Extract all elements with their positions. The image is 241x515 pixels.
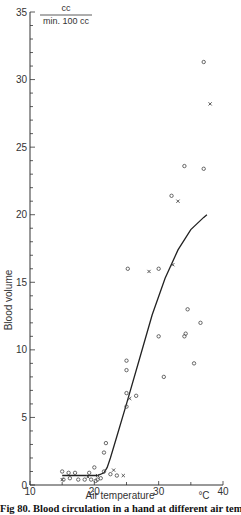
y-tick-label: 5 bbox=[21, 412, 27, 423]
x-tick-label: 30 bbox=[153, 486, 165, 497]
circle-marker bbox=[115, 474, 118, 477]
circle-marker bbox=[60, 470, 63, 473]
y-axis-title: Blood volume bbox=[3, 269, 14, 330]
circle-marker bbox=[183, 164, 186, 167]
y-unit-numerator: cc bbox=[62, 3, 72, 13]
circle-marker bbox=[157, 335, 160, 338]
circle-marker bbox=[192, 362, 195, 365]
y-tick-label: 35 bbox=[16, 7, 28, 18]
x-tick-label: 40 bbox=[217, 486, 229, 497]
circle-marker bbox=[109, 472, 112, 475]
circle-marker bbox=[99, 477, 102, 480]
figure-caption: Fig 80. Blood circulation in a hand at d… bbox=[0, 503, 241, 514]
blood-volume-chart: 0510152025303510203040 Blood volume Air … bbox=[0, 0, 241, 515]
y-tick-label: 20 bbox=[16, 209, 28, 220]
circle-marker bbox=[126, 267, 129, 270]
x-tick-label: 10 bbox=[24, 486, 36, 497]
circle-marker bbox=[67, 471, 70, 474]
y-tick-label: 10 bbox=[16, 344, 28, 355]
y-tick-label: 15 bbox=[16, 277, 28, 288]
circle-marker bbox=[104, 441, 107, 444]
cross-marker bbox=[176, 200, 179, 203]
circle-marker bbox=[125, 359, 128, 362]
circle-marker bbox=[93, 466, 96, 469]
y-unit-denominator: min. 100 cc bbox=[43, 16, 90, 26]
y-tick-label: 30 bbox=[16, 74, 28, 85]
circle-marker bbox=[125, 368, 128, 371]
circle-marker bbox=[157, 267, 160, 270]
y-tick-label: 25 bbox=[16, 142, 28, 153]
cross-marker bbox=[122, 474, 125, 477]
circle-marker bbox=[202, 167, 205, 170]
circle-marker bbox=[162, 375, 165, 378]
x-axis-title: Air temperature bbox=[86, 490, 155, 501]
circle-marker bbox=[68, 477, 71, 480]
cross-marker bbox=[147, 270, 150, 273]
circle-marker bbox=[134, 394, 137, 397]
circle-marker bbox=[89, 478, 92, 481]
cross-marker bbox=[112, 469, 115, 472]
cross-marker bbox=[209, 102, 212, 105]
circle-marker bbox=[199, 321, 202, 324]
circle-marker bbox=[202, 60, 205, 63]
circle-marker bbox=[77, 478, 80, 481]
x-unit-label: °C bbox=[198, 490, 209, 501]
data-points bbox=[60, 60, 211, 482]
circle-marker bbox=[83, 478, 86, 481]
axis-labels: Blood volume Air temperature °C cc min. … bbox=[3, 3, 210, 501]
circle-marker bbox=[102, 451, 105, 454]
circle-marker bbox=[170, 194, 173, 197]
fit-curve bbox=[62, 215, 207, 476]
circle-marker bbox=[186, 308, 189, 311]
axes: 0510152025303510203040 bbox=[16, 7, 229, 498]
circle-marker bbox=[125, 391, 128, 394]
circle-marker bbox=[73, 471, 76, 474]
fit-curve-line bbox=[62, 215, 207, 476]
circle-marker bbox=[87, 471, 90, 474]
